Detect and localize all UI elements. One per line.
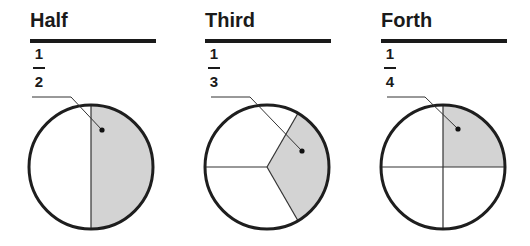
forth-leader-dot (455, 126, 460, 131)
half-leader-dot (99, 127, 104, 132)
third-leader-dot (299, 148, 304, 153)
half-circle-diagram (29, 97, 153, 229)
third-circle-diagram (205, 97, 329, 229)
half-shaded-sector (91, 105, 153, 229)
fraction-circles (0, 0, 530, 246)
forth-circle-diagram (381, 97, 505, 229)
third-shaded-sector (267, 113, 329, 220)
